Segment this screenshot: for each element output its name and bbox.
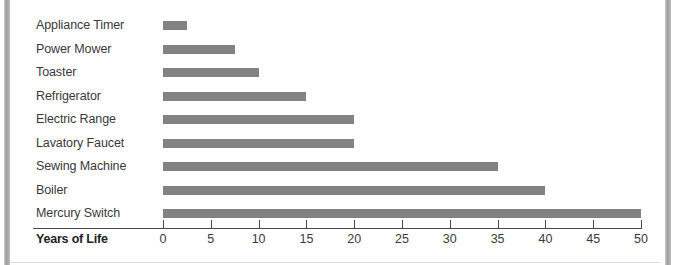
x-axis-tick bbox=[354, 220, 355, 228]
x-axis-tick-label: 30 bbox=[430, 232, 470, 246]
bar bbox=[163, 21, 187, 30]
chart-row: Appliance Timer bbox=[0, 14, 683, 36]
category-label: Sewing Machine bbox=[36, 155, 156, 177]
category-label: Refrigerator bbox=[36, 85, 156, 107]
horizontal-bar-chart: Appliance TimerPower MowerToasterRefrige… bbox=[0, 0, 683, 265]
x-axis-tick bbox=[498, 220, 499, 228]
x-axis-tick bbox=[593, 220, 594, 228]
bar bbox=[163, 68, 259, 77]
x-axis-tick bbox=[306, 220, 307, 228]
chart-row: Sewing Machine bbox=[0, 155, 683, 177]
x-axis-tick-label: 10 bbox=[239, 232, 279, 246]
x-axis-tick-label: 0 bbox=[143, 232, 183, 246]
category-label: Toaster bbox=[36, 61, 156, 83]
x-axis-tick bbox=[163, 220, 164, 228]
x-axis-tick bbox=[450, 220, 451, 228]
bar bbox=[163, 162, 498, 171]
x-axis-tick-label: 5 bbox=[191, 232, 231, 246]
x-axis-tick bbox=[259, 220, 260, 228]
bar bbox=[163, 92, 306, 101]
category-label: Lavatory Faucet bbox=[36, 132, 156, 154]
chart-row: Boiler bbox=[0, 179, 683, 201]
category-label: Electric Range bbox=[36, 108, 156, 130]
chart-row: Toaster bbox=[0, 61, 683, 83]
x-axis-tick bbox=[545, 220, 546, 228]
x-axis-tick-label: 20 bbox=[334, 232, 374, 246]
x-axis-tick-label: 25 bbox=[382, 232, 422, 246]
x-axis-tick-label: 40 bbox=[525, 232, 565, 246]
category-label: Appliance Timer bbox=[36, 14, 156, 36]
x-axis-tick bbox=[402, 220, 403, 228]
x-axis-tick bbox=[211, 220, 212, 228]
bar bbox=[163, 139, 354, 148]
chart-row: Power Mower bbox=[0, 38, 683, 60]
category-label: Boiler bbox=[36, 179, 156, 201]
x-axis-line bbox=[33, 228, 642, 229]
bar bbox=[163, 45, 235, 54]
chart-row: Electric Range bbox=[0, 108, 683, 130]
bar bbox=[163, 209, 641, 218]
chart-row: Mercury Switch bbox=[0, 202, 683, 224]
x-axis-tick-label: 45 bbox=[573, 232, 613, 246]
category-label: Mercury Switch bbox=[36, 202, 156, 224]
chart-row: Refrigerator bbox=[0, 85, 683, 107]
x-axis-title: Years of Life bbox=[36, 232, 108, 246]
chart-row: Lavatory Faucet bbox=[0, 132, 683, 154]
x-axis-tick-label: 15 bbox=[286, 232, 326, 246]
x-axis-tick-label: 50 bbox=[621, 232, 661, 246]
x-axis-tick bbox=[641, 220, 642, 228]
scanned-page: Appliance TimerPower MowerToasterRefrige… bbox=[0, 0, 683, 265]
category-label: Power Mower bbox=[36, 38, 156, 60]
bar bbox=[163, 186, 545, 195]
x-axis-tick-label: 35 bbox=[478, 232, 518, 246]
bar bbox=[163, 115, 354, 124]
